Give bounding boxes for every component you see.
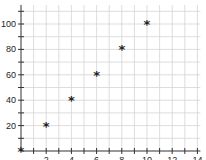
x-tick-label: 10 [142,155,152,160]
x-tick-label: 12 [167,155,177,160]
y-tick-label: 100 [1,19,16,29]
y-tick-label: 40 [6,95,16,105]
y-tick-label: 20 [6,121,16,131]
x-tick-label: 4 [69,155,74,160]
asterisk-marker-icon: * [68,93,75,108]
x-tick-label: 2 [44,155,49,160]
asterisk-marker-icon: * [118,42,125,57]
asterisk-marker-icon: * [144,17,151,32]
y-tick-label: 80 [6,44,16,54]
x-tick-label: 8 [119,155,124,160]
asterisk-marker-icon: * [93,68,100,83]
x-tick-label: 14 [192,155,202,160]
scatter-chart: 2468101214 20406080100 ****** [0,0,206,160]
y-tick-label: 60 [6,70,16,80]
x-tick-label: 6 [94,155,99,160]
asterisk-marker-icon: * [43,119,50,134]
asterisk-marker-icon: * [18,144,25,159]
x-axis-ticks: 2468101214 [34,148,203,160]
